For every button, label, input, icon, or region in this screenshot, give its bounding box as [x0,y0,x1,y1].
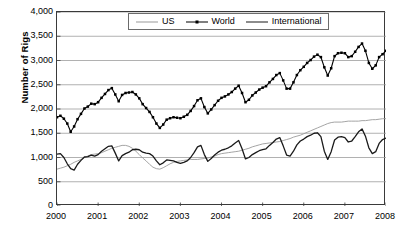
x-tick-label: 2006 [293,212,313,221]
legend-swatch-icon [136,17,158,26]
legend-item-world[interactable]: World [186,17,235,26]
legend-swatch-icon [246,17,268,26]
x-tick-label: 2005 [252,212,272,221]
legend-item-international[interactable]: International [246,17,322,26]
legend-item-us[interactable]: US [136,17,175,26]
x-tick-label: 2001 [87,212,107,221]
legend-swatch-icon [186,17,208,26]
legend-label: International [272,17,322,26]
chart-figure: Number of Rigs 05001,0001,5002,0002,5003… [0,0,403,233]
x-tick-label: 2002 [128,212,148,221]
x-tick-label: 2004 [210,212,230,221]
x-tick-label: 2003 [169,212,189,221]
chart-legend: USWorldInternational [128,13,329,30]
x-tick-label: 2008 [375,212,395,221]
x-axis-tick-labels: 200020012002200320042005200620072008 [0,0,403,233]
legend-label: US [162,17,175,26]
x-tick-label: 2007 [334,212,354,221]
x-tick-label: 2000 [46,212,66,221]
legend-label: World [212,17,235,26]
